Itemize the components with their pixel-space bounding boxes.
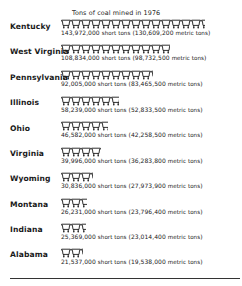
pictograph-row: Wyoming30,836,000 short tons (27,973,900… [0,172,242,198]
pictograph-row: Illinois58,239,000 short tons (52,833,50… [0,96,242,122]
tonnage-value: 39,996,000 short tons (36,283,800 metric… [61,157,203,164]
tonnage-value: 58,239,000 short tons (52,833,500 metric… [61,106,203,113]
cart-bar [61,44,170,54]
mine-cart-icon [61,147,71,157]
mine-cart-icon [121,70,131,80]
mine-cart-icon [61,96,71,106]
mine-cart-icon [81,44,91,54]
mine-cart-icon [131,44,141,54]
state-label: Ohio [10,124,30,133]
mine-cart-icon [141,70,151,80]
mine-cart-icon [71,19,81,29]
state-label: Illinois [10,98,39,107]
mine-cart-icon [181,19,191,29]
mine-cart-icon [111,19,121,29]
cart-bar [61,19,205,29]
pictograph-row: Virginia39,996,000 short tons (36,283,80… [0,147,242,173]
cart-bar [61,121,108,131]
mine-cart-icon [61,198,71,208]
mine-cart-icon [151,19,161,29]
mine-cart-icon [61,223,71,233]
mine-cart-icon [71,44,81,54]
mine-cart-icon [71,223,81,233]
partial-mine-cart-icon [101,121,108,131]
cart-bar [61,198,87,208]
cart-bar [61,172,93,182]
state-label: Indiana [10,225,43,234]
state-label: West Virginia [10,47,69,56]
mine-cart-icon [101,70,111,80]
partial-mine-cart-icon [81,198,87,208]
tonnage-value: 26,231,000 short tons (23,796,400 metric… [61,208,203,215]
mine-cart-icon [81,172,91,182]
mine-cart-icon [71,96,81,106]
mine-cart-icon [71,70,81,80]
mine-cart-icon [61,172,71,182]
mine-cart-icon [131,70,141,80]
mine-cart-icon [131,19,141,29]
mine-cart-icon [101,96,111,106]
mine-cart-icon [91,19,101,29]
bottom-rule [10,278,240,279]
pictograph-row: Pennsylvania92,005,000 short tons (83,46… [0,70,242,96]
partial-mine-cart-icon [111,96,119,106]
tonnage-value: 46,582,000 short tons (42,258,500 metric… [61,131,203,138]
mine-cart-icon [91,96,101,106]
mine-cart-icon [141,44,151,54]
partial-mine-cart-icon [81,248,83,258]
mine-cart-icon [71,147,81,157]
mine-cart-icon [91,121,101,131]
mine-cart-icon [71,121,81,131]
mine-cart-icon [151,44,161,54]
partial-mine-cart-icon [201,19,205,29]
tonnage-value: 25,369,000 short tons (23,014,400 metric… [61,233,203,240]
state-label: Kentucky [10,22,51,31]
state-label: Wyoming [10,174,51,183]
mine-cart-icon [91,44,101,54]
pictograph-row: Ohio46,582,000 short tons (42,258,500 me… [0,121,242,147]
mine-cart-icon [121,19,131,29]
cart-bar [61,223,86,233]
mine-cart-icon [81,147,91,157]
partial-mine-cart-icon [81,223,86,233]
mine-cart-icon [81,121,91,131]
mine-cart-icon [81,70,91,80]
partial-mine-cart-icon [161,44,170,54]
cart-bar [61,248,83,258]
state-label: Virginia [10,149,44,158]
cart-bar [61,70,153,80]
mine-cart-icon [71,198,81,208]
partial-mine-cart-icon [151,70,153,80]
tonnage-value: 21,537,000 short tons (19,538,000 metric… [61,258,203,265]
mine-cart-icon [71,172,81,182]
state-label: Alabama [10,250,48,259]
mine-cart-icon [81,19,91,29]
pictograph-row: Kentucky143,972,000 short tons (130,609,… [0,19,242,45]
mine-cart-icon [141,19,151,29]
mine-cart-icon [101,19,111,29]
pictograph-row: Indiana25,369,000 short tons (23,014,400… [0,223,242,249]
tonnage-value: 143,972,000 short tons (130,609,200 metr… [61,29,210,36]
tonnage-value: 92,005,000 short tons (83,465,500 metric… [61,80,203,87]
cart-bar [61,96,119,106]
mine-cart-icon [191,19,201,29]
mine-cart-icon [61,44,71,54]
mine-cart-icon [61,19,71,29]
mine-cart-icon [161,19,171,29]
pictograph-row: West Virginia108,834,000 short tons (98,… [0,44,242,70]
mine-cart-icon [111,44,121,54]
mine-cart-icon [101,44,111,54]
tonnage-value: 108,834,000 short tons (98,732,500 metri… [61,54,206,61]
mine-cart-icon [91,147,101,157]
cart-bar [61,147,101,157]
state-label: Pennsylvania [10,73,68,82]
mine-cart-icon [61,248,71,258]
tonnage-value: 30,836,000 short tons (27,973,900 metric… [61,182,203,189]
mine-cart-icon [121,44,131,54]
pictograph-row: Montana26,231,000 short tons (23,796,400… [0,198,242,224]
pictograph-row: Alabama21,537,000 short tons (19,538,000… [0,248,242,274]
state-label: Montana [10,200,48,209]
mine-cart-icon [171,19,181,29]
mine-cart-icon [111,70,121,80]
mine-cart-icon [81,96,91,106]
